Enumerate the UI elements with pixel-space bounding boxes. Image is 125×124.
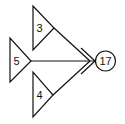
edge-4-to-17: [53, 61, 90, 95]
edge-3-to-17: [54, 28, 90, 61]
triangle-5-label: 5: [14, 55, 20, 67]
triangle-3-label: 3: [37, 22, 43, 34]
triangle-4-label: 4: [37, 89, 43, 101]
merge-diagram: 3 5 4 17: [0, 0, 125, 124]
result-node-label: 17: [99, 55, 111, 67]
